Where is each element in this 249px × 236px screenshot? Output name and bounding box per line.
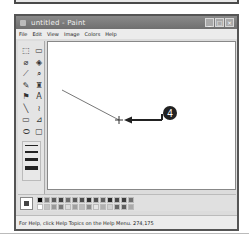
color-swatch[interactable] <box>37 197 43 203</box>
callout-number: 4 <box>167 108 173 119</box>
color-swatch[interactable] <box>44 204 50 210</box>
previous-window-edge <box>14 0 239 4</box>
color-swatch[interactable] <box>44 197 50 203</box>
drawn-line <box>62 90 119 120</box>
color-swatch[interactable] <box>121 204 127 210</box>
window-controls: _ □ × <box>205 18 234 27</box>
canvas-drawing: 4 <box>48 42 238 189</box>
paint-window: untitled - Paint _ □ × File Edit View Im… <box>14 14 239 231</box>
free-form-select-icon[interactable]: ⬚ <box>20 45 32 57</box>
color-swatch[interactable] <box>51 204 57 210</box>
pick-color-icon[interactable]: ⟋ <box>20 68 32 80</box>
current-colors[interactable] <box>20 197 33 210</box>
title-bar[interactable]: untitled - Paint _ □ × <box>16 16 237 29</box>
line-width-2[interactable] <box>25 151 38 153</box>
minimize-button[interactable]: _ <box>205 18 214 27</box>
menu-edit[interactable]: Edit <box>32 31 42 37</box>
curve-icon[interactable]: ≀ <box>33 103 45 115</box>
ellipse-icon[interactable]: ⬭ <box>20 126 32 138</box>
rounded-rectangle-icon[interactable]: ▢ <box>33 126 45 138</box>
color-palette <box>18 194 236 211</box>
menu-view[interactable]: View <box>47 31 59 37</box>
color-swatch[interactable] <box>65 204 71 210</box>
line-width-4[interactable] <box>25 166 38 170</box>
color-swatch[interactable] <box>100 204 106 210</box>
color-swatch[interactable] <box>37 204 43 210</box>
color-swatch[interactable] <box>86 197 92 203</box>
magnifier-icon[interactable]: ⌕ <box>33 68 45 80</box>
line-width-selector[interactable] <box>22 141 41 181</box>
menu-bar: File Edit View Image Colors Help <box>16 29 237 39</box>
tool-grid: ⬚▭⌀◈⟋⌕✎♜⚑A╲≀▭⊿⬭▢ <box>18 41 44 137</box>
line-icon[interactable]: ╲ <box>20 103 32 115</box>
color-swatch[interactable] <box>79 197 85 203</box>
toolbox: ⬚▭⌀◈⟋⌕✎♜⚑A╲≀▭⊿⬭▢ <box>18 41 45 194</box>
color-swatch[interactable] <box>107 204 113 210</box>
crosshair-cursor-icon <box>115 116 123 124</box>
text-icon[interactable]: A <box>33 91 45 103</box>
color-swatch[interactable] <box>121 197 127 203</box>
window-title: untitled - Paint <box>31 19 86 27</box>
color-swatch[interactable] <box>72 197 78 203</box>
paint-app-icon <box>20 20 26 26</box>
color-swatch[interactable] <box>93 204 99 210</box>
line-width-1[interactable] <box>25 145 38 146</box>
color-swatch[interactable] <box>79 204 85 210</box>
divider <box>0 233 249 234</box>
color-swatches <box>37 197 134 210</box>
maximize-button[interactable]: □ <box>215 18 224 27</box>
menu-file[interactable]: File <box>19 31 27 37</box>
status-bar: For Help, click Help Topics on the Help … <box>16 215 237 229</box>
drawing-canvas[interactable]: 4 <box>47 41 236 190</box>
color-swatch[interactable] <box>100 197 106 203</box>
brush-icon[interactable]: ♜ <box>33 80 45 92</box>
color-swatch[interactable] <box>93 197 99 203</box>
color-swatch[interactable] <box>86 204 92 210</box>
color-swatch[interactable] <box>58 197 64 203</box>
color-swatch[interactable] <box>65 197 71 203</box>
polygon-icon[interactable]: ⊿ <box>33 114 45 126</box>
fill-icon[interactable]: ◈ <box>33 57 45 69</box>
line-width-3[interactable] <box>25 158 38 161</box>
color-swatch[interactable] <box>114 204 120 210</box>
color-swatch[interactable] <box>72 204 78 210</box>
color-swatch[interactable] <box>128 204 134 210</box>
menu-colors[interactable]: Colors <box>85 31 101 37</box>
foreground-color <box>23 200 30 207</box>
rectangle-icon[interactable]: ▭ <box>20 114 32 126</box>
color-swatch[interactable] <box>128 197 134 203</box>
menu-help[interactable]: Help <box>105 31 116 37</box>
close-button[interactable]: × <box>225 18 234 27</box>
callout-arrow-icon <box>124 114 162 124</box>
color-swatch[interactable] <box>58 204 64 210</box>
color-swatch[interactable] <box>114 197 120 203</box>
color-swatch[interactable] <box>51 197 57 203</box>
airbrush-icon[interactable]: ⚑ <box>20 91 32 103</box>
color-swatch[interactable] <box>107 197 113 203</box>
eraser-icon[interactable]: ⌀ <box>20 57 32 69</box>
pencil-icon[interactable]: ✎ <box>20 80 32 92</box>
menu-image[interactable]: Image <box>64 31 80 37</box>
select-icon[interactable]: ▭ <box>33 45 45 57</box>
